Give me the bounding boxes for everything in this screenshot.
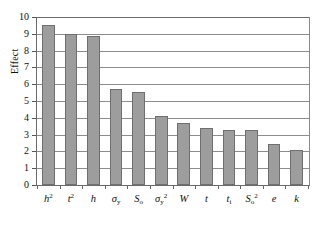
x-tick-mark xyxy=(263,186,264,189)
bar-e xyxy=(268,144,281,185)
x-label-t_i: ti xyxy=(218,192,241,205)
bar-S_o^2 xyxy=(245,130,258,185)
bar-t_i xyxy=(223,130,236,185)
y-tick-label: 1 xyxy=(0,163,29,173)
y-tick-label: 0 xyxy=(0,180,29,190)
x-label-e: e xyxy=(263,192,286,205)
x-label-S_o^2: So2 xyxy=(240,192,263,205)
x-label-S_o: So xyxy=(127,192,150,205)
x-tick-mark xyxy=(173,186,174,189)
y-tick-label: 10 xyxy=(0,12,29,22)
y-tick-label: 3 xyxy=(0,130,29,140)
bar-sigma_y^2 xyxy=(155,116,168,185)
x-label-h^2: h2 xyxy=(37,192,60,205)
x-tick-mark xyxy=(285,186,286,189)
x-axis-ticks xyxy=(37,186,308,190)
x-label-h: h xyxy=(82,192,105,205)
x-tick-mark xyxy=(82,186,83,189)
x-tick-mark xyxy=(60,186,61,189)
bar-S_o xyxy=(132,92,145,185)
bar-W xyxy=(177,123,190,185)
bar-t xyxy=(200,128,213,185)
bar-t^2 xyxy=(65,34,78,185)
bar-k xyxy=(290,150,303,185)
x-tick-mark xyxy=(308,186,309,189)
y-tick-label: 8 xyxy=(0,46,29,56)
y-tick-label: 5 xyxy=(0,96,29,106)
y-tick-label: 6 xyxy=(0,79,29,89)
y-tick-label: 7 xyxy=(0,62,29,72)
x-tick-mark xyxy=(37,186,38,189)
x-axis-labels: h2t2hσySoσy2WttiSo2ek xyxy=(37,192,308,216)
x-tick-mark xyxy=(150,186,151,189)
x-tick-mark xyxy=(240,186,241,189)
x-label-sigma_y: σy xyxy=(105,192,128,205)
x-label-t^2: t2 xyxy=(60,192,83,205)
x-tick-mark xyxy=(218,186,219,189)
x-label-t: t xyxy=(195,192,218,205)
y-axis-ticks: 109876543210 xyxy=(0,17,36,185)
y-tick-label: 9 xyxy=(0,29,29,39)
bar-h^2 xyxy=(42,25,55,185)
bar-h xyxy=(87,36,100,185)
bar-sigma_y xyxy=(110,89,123,185)
y-tick-label: 4 xyxy=(0,113,29,123)
x-tick-mark xyxy=(127,186,128,189)
bars-layer xyxy=(37,17,308,185)
x-label-sigma_y^2: σy2 xyxy=(150,192,173,205)
x-tick-mark xyxy=(105,186,106,189)
x-tick-mark xyxy=(195,186,196,189)
x-label-W: W xyxy=(173,192,196,205)
effect-bar-chart: Effect 109876543210 h2t2hσySoσy2WttiSo2e… xyxy=(0,0,325,229)
x-label-k: k xyxy=(285,192,308,205)
y-tick-label: 2 xyxy=(0,146,29,156)
